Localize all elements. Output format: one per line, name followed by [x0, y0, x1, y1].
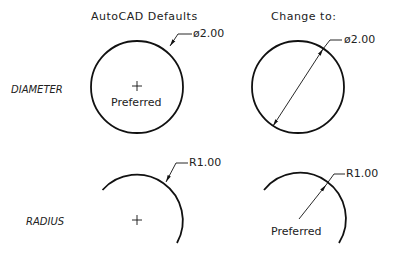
diameter-change-dimension-text: ø2.00 [344, 34, 375, 45]
diameter-default-dimension-text: ø2.00 [193, 28, 224, 39]
radius-change-preferred-note: Preferred [271, 226, 322, 237]
diameter-default-leader-arrow [170, 34, 178, 46]
diameter-default-figure [91, 34, 192, 133]
radius-default-figure [103, 163, 189, 243]
row-label-diameter: DIAMETER [11, 85, 63, 95]
diameter-change-dimension-line [273, 49, 323, 126]
diameter-change-leader [323, 40, 342, 49]
column-heading-change: Change to: [271, 11, 336, 22]
radius-default-dimension-text: R1.00 [189, 157, 221, 168]
radius-default-arc [103, 175, 183, 243]
dimension-style-diagram: AutoCAD Defaults Change to: DIAMETER RAD… [0, 0, 402, 266]
diameter-change-figure [252, 40, 344, 133]
center-mark-icon [132, 81, 142, 91]
row-label-radius: RADIUS [26, 217, 64, 227]
radius-default-leader-arrow [166, 163, 176, 182]
column-heading-defaults: AutoCAD Defaults [91, 11, 198, 22]
diameter-default-preferred-note: Preferred [111, 97, 162, 108]
center-mark-icon [132, 215, 142, 225]
radius-change-dimension-text: R1.00 [346, 168, 378, 179]
radius-change-dimension-line [299, 185, 326, 219]
